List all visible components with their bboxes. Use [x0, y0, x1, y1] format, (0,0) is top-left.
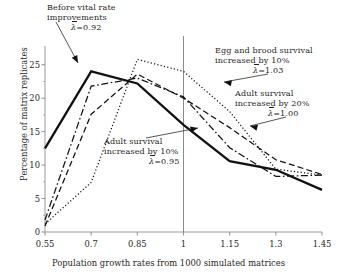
y-tick-label: 5 [18, 194, 40, 204]
x-tick-label: 1.45 [302, 239, 337, 249]
lambda-symbol-adult20: λ [268, 108, 273, 118]
x-tick-label: 0.85 [117, 239, 157, 249]
x-tick-label: 0.7 [71, 239, 111, 249]
annotation-adult-survival-20: Adult survival increased by 20% λ=1.00 [235, 88, 309, 119]
lambda-value-egg: =1.03 [258, 65, 283, 75]
lambda-value-adult20: =1.00 [273, 108, 298, 118]
annotation-before-vital-rate: Before vital rate improvements λ=0.92 [47, 2, 116, 33]
lambda-symbol-before: λ [71, 22, 76, 32]
annotation-arrowhead [224, 80, 232, 86]
annotation-arrowhead [72, 55, 78, 63]
figure: 0510152025 0.550.70.8511.151.31.45 Perce… [0, 0, 337, 280]
annotation-before-line1: Before vital rate [47, 2, 116, 12]
lambda-value-before: =0.92 [76, 22, 101, 32]
annotation-adult-survival-10: Adult survival increased by 10% λ=0.95 [104, 136, 180, 167]
annotation-egg-line1: Egg and brood survival [215, 45, 313, 55]
annotation-adult10-lambda: λ=0.95 [104, 156, 180, 166]
y-axis-title: Percentage of matrix replicates [19, 34, 29, 194]
annotation-egg-line2: increased by 10% [215, 55, 313, 65]
y-tick-label: 0 [18, 227, 40, 237]
annotation-arrowhead [190, 126, 198, 132]
annotation-adult20-lambda: λ=1.00 [235, 108, 309, 118]
annotation-egg-lambda: λ=1.03 [215, 65, 313, 75]
x-tick-label: 0.55 [25, 239, 65, 249]
lambda-symbol-egg: λ [253, 65, 258, 75]
annotation-leader-group [56, 22, 286, 138]
annotation-before-lambda: λ=0.92 [47, 22, 116, 32]
x-tick-label: 1.3 [256, 239, 296, 249]
annotation-before-line2: improvements [47, 12, 116, 22]
annotation-adult20-line1: Adult survival [235, 88, 309, 98]
x-axis-title: Population growth rates from 1000 simula… [0, 258, 337, 268]
annotation-adult10-line1: Adult survival [104, 136, 180, 146]
annotation-egg-brood: Egg and brood survival increased by 10% … [215, 45, 313, 76]
lambda-value-adult10: =0.95 [154, 156, 179, 166]
lambda-symbol-adult10: λ [149, 156, 154, 166]
x-tick-label: 1.15 [210, 239, 250, 249]
annotation-adult10-line2: increased by 10% [104, 146, 180, 156]
x-tick-label: 1 [164, 239, 204, 249]
